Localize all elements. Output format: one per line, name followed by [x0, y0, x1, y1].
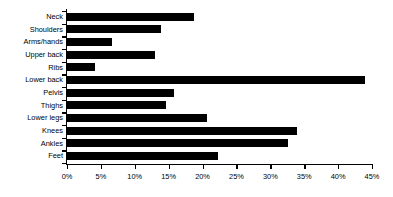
bar	[67, 38, 112, 46]
x-axis-tick	[372, 164, 373, 169]
category-label: Feet	[0, 152, 63, 160]
bar	[67, 51, 155, 59]
y-axis-tick	[62, 138, 67, 139]
x-axis-tick-label: 40%	[331, 172, 346, 181]
category-label: Knees	[0, 127, 63, 135]
x-axis-tick-label: 35%	[297, 172, 312, 181]
category-label: Ankles	[0, 140, 63, 148]
y-axis-tick	[62, 49, 67, 50]
y-axis-tick	[62, 125, 67, 126]
x-axis-tick	[270, 164, 271, 169]
x-axis-tick	[67, 164, 68, 169]
y-axis-tick	[62, 100, 67, 101]
y-axis-tick	[62, 150, 67, 151]
bar	[67, 63, 95, 71]
y-axis-tick	[62, 163, 67, 164]
y-axis-tick	[62, 11, 67, 12]
plot-area	[67, 11, 372, 163]
x-axis-tick-label: 45%	[365, 172, 380, 181]
x-axis-tick	[169, 164, 170, 169]
x-axis-tick-label: 25%	[229, 172, 244, 181]
category-label: Lower legs	[0, 114, 63, 122]
category-axis: NeckShouldersArms/handsUpper backRibsLow…	[0, 11, 63, 163]
x-axis-tick	[135, 164, 136, 169]
bar	[67, 89, 174, 97]
category-label: Pelvis	[0, 89, 63, 97]
bar	[67, 101, 166, 109]
x-axis-tick	[304, 164, 305, 169]
x-axis-tick	[338, 164, 339, 169]
bar	[67, 127, 297, 135]
x-axis-tick-label: 0%	[62, 172, 73, 181]
x-axis-tick-label: 10%	[127, 172, 142, 181]
horizontal-bar-chart: NeckShouldersArms/handsUpper backRibsLow…	[0, 0, 393, 197]
category-label: Thighs	[0, 102, 63, 110]
x-axis-tick	[203, 164, 204, 169]
bar	[67, 13, 194, 21]
y-axis-tick	[62, 112, 67, 113]
bar	[67, 76, 365, 84]
y-axis-tick	[62, 87, 67, 88]
x-axis-tick-label: 15%	[161, 172, 176, 181]
category-label: Shoulders	[0, 26, 63, 34]
y-axis-tick	[62, 24, 67, 25]
category-label: Arms/hands	[0, 38, 63, 46]
category-label: Upper back	[0, 51, 63, 59]
x-axis-tick	[236, 164, 237, 169]
category-label: Ribs	[0, 64, 63, 72]
bar	[67, 114, 207, 122]
bar	[67, 139, 288, 147]
x-axis-line	[66, 164, 373, 165]
x-axis-tick-label: 20%	[195, 172, 210, 181]
y-axis-tick	[62, 62, 67, 63]
x-axis-tick	[101, 164, 102, 169]
y-axis-tick	[62, 36, 67, 37]
x-axis-tick-label: 5%	[96, 172, 107, 181]
category-label: Neck	[0, 13, 63, 21]
category-label: Lower back	[0, 76, 63, 84]
y-axis-tick	[62, 74, 67, 75]
bar	[67, 152, 218, 160]
x-axis-tick-label: 30%	[263, 172, 278, 181]
bar	[67, 25, 161, 33]
